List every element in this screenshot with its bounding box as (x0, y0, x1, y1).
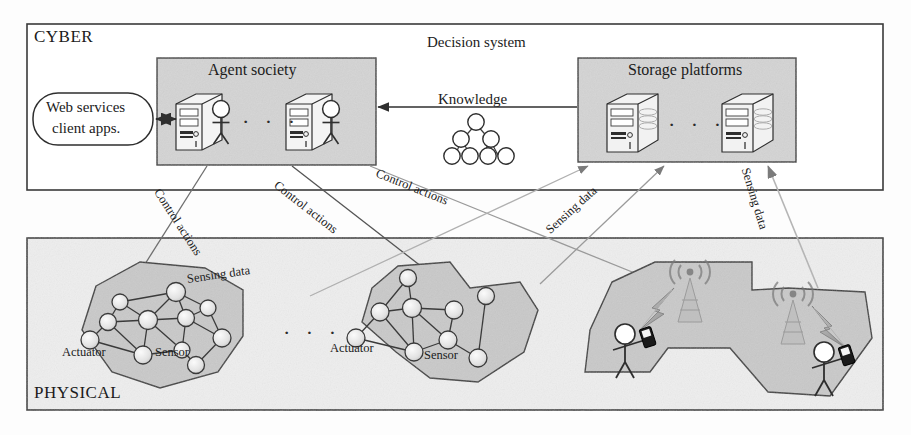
web-services-line1: Web services (46, 99, 125, 116)
wsn-node (445, 301, 463, 319)
wsn-node (469, 349, 487, 367)
wsn1-sensor-label: Sensor (155, 345, 189, 360)
wsn-node (139, 311, 158, 330)
storage-server-icon-2 (722, 94, 773, 152)
agent-society-ellipsis: · · · (242, 109, 300, 135)
wsn2-sensor-label: Sensor (424, 348, 458, 363)
wsn-node (371, 303, 389, 321)
storage-platforms-ellipsis: · · · (668, 112, 726, 138)
wsn-node (439, 331, 457, 349)
wsn-node (178, 310, 195, 327)
wsn-node (403, 299, 422, 318)
physical-layer-tag: PHYSICAL (34, 383, 121, 403)
wsn-node-sensor (405, 343, 423, 361)
wsn1-actuator-label: Actuator (62, 345, 106, 360)
wsn-node (400, 270, 417, 287)
cyber-layer-tag: CYBER (34, 27, 93, 47)
storage-server-icon-1 (607, 94, 658, 152)
storage-platforms-title: Storage platforms (628, 61, 742, 79)
web-services-line2: client apps. (52, 120, 120, 137)
wsn-node (100, 314, 117, 331)
wsn-node (112, 294, 128, 310)
wsn-node (200, 300, 216, 316)
wsn-node (478, 288, 495, 305)
wsn-node (167, 283, 186, 302)
diagram-svg (0, 0, 911, 435)
wsn-node (188, 357, 205, 374)
knowledge-label: Knowledge (438, 91, 507, 108)
agent-society-title: Agent society (208, 61, 296, 79)
decision-system-label: Decision system (427, 34, 526, 51)
wsn-node (213, 329, 231, 347)
figure-canvas: CYBER PHYSICAL Decision system Knowledge… (0, 0, 911, 435)
wsn-node-sensor (134, 346, 152, 364)
wsn2-actuator-label: Actuator (330, 341, 374, 356)
